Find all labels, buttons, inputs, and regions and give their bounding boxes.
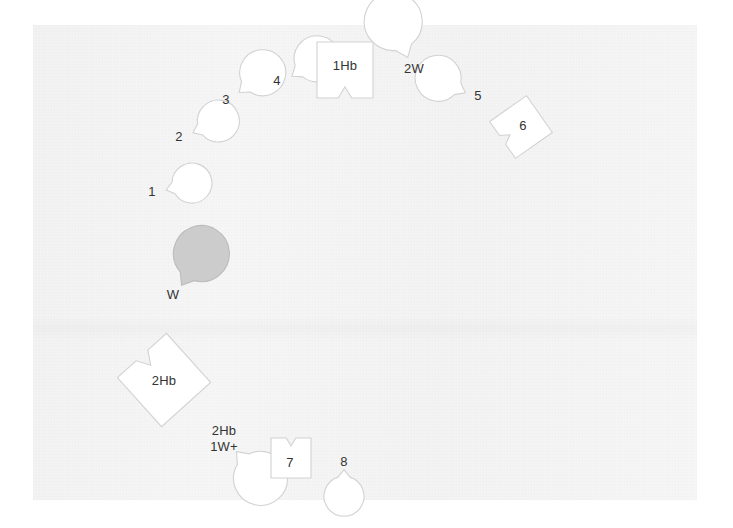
cell-shape — [317, 42, 373, 98]
cell-label: 5 — [474, 88, 481, 103]
cell-label: 8 — [340, 454, 347, 469]
cell-shape — [271, 438, 311, 478]
cells-layer — [117, 0, 552, 516]
cell-label-line: 2Hb — [212, 423, 236, 438]
cell-label-line: 5 — [474, 88, 481, 103]
cell-diagram: 12341Hb2W56W2Hb2Hb1W+78 — [0, 0, 733, 528]
cell-label: W — [167, 287, 180, 302]
cell-label-line: W — [167, 287, 180, 302]
cell-label: 2Hb1W+ — [210, 423, 238, 454]
cell-label-line: 1W+ — [210, 439, 238, 454]
figure-root: 12341Hb2W56W2Hb2Hb1W+78 — [0, 0, 733, 528]
cell-shape — [117, 333, 210, 426]
cell-shape — [324, 470, 364, 517]
cell-label: 2 — [175, 129, 182, 144]
cell-shape — [193, 100, 239, 142]
cell-shape — [173, 226, 229, 286]
cell-shape — [239, 50, 285, 96]
cell-label-line: 1 — [148, 184, 155, 199]
cell-label-line: 2 — [175, 129, 182, 144]
cell-shape — [166, 163, 212, 203]
cell-shape — [490, 96, 553, 159]
cell-label: 1 — [148, 184, 155, 199]
cell-label-line: 8 — [340, 454, 347, 469]
cell-shape — [415, 55, 465, 101]
